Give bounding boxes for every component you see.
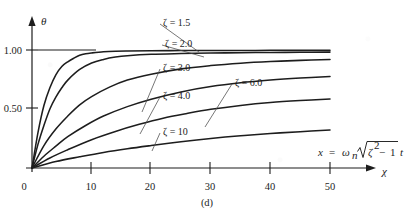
x-tick-label-30: 30 bbox=[205, 181, 216, 192]
curve-label: ζ = 3.0 bbox=[163, 62, 190, 74]
x-tick-label-40: 40 bbox=[265, 181, 276, 192]
equation-omega-subscript: n bbox=[352, 149, 358, 161]
curve-label-leader-line bbox=[152, 133, 160, 151]
curve-label: ζ = 6.0 bbox=[235, 77, 262, 89]
equation-minus: − bbox=[379, 146, 385, 158]
equation-lhs: x bbox=[317, 146, 323, 158]
x-axis-label: χ bbox=[381, 165, 388, 177]
response-curve bbox=[32, 59, 330, 168]
y-tick-label-1: 1.00 bbox=[4, 45, 22, 56]
y-tick-label-0: 0.50 bbox=[4, 103, 22, 114]
y-axis-label: θ bbox=[41, 15, 47, 27]
curve-label-leader-line bbox=[205, 84, 232, 127]
curve-label: ζ = 4.0 bbox=[163, 90, 190, 102]
x-axis-arrowhead bbox=[366, 164, 376, 171]
y-ticks-group bbox=[26, 50, 96, 108]
axes-group bbox=[26, 16, 376, 172]
x-tick-label-20: 20 bbox=[145, 181, 156, 192]
curve-labels-group: ζ = 1.5ζ = 2.0ζ = 3.0ζ = 4.0ζ = 6.0ζ = 1… bbox=[163, 17, 262, 138]
figure-container: 1.00 0.50 0 10 20 30 40 50 θ χ ζ = 1.5ζ … bbox=[0, 0, 418, 216]
curve-label-leader-line bbox=[140, 97, 160, 134]
equation-annotation: x = ω n ζ 2 − 1 t bbox=[317, 139, 404, 161]
x-tick-label-10: 10 bbox=[86, 181, 97, 192]
step-response-plot: 1.00 0.50 0 10 20 30 40 50 θ χ ζ = 1.5ζ … bbox=[0, 0, 418, 216]
curve-label: ζ = 2.0 bbox=[165, 38, 192, 50]
equation-omega: ω bbox=[342, 146, 350, 158]
curve-label: ζ = 10 bbox=[163, 126, 188, 138]
equation-equals: = bbox=[329, 146, 335, 158]
y-axis-arrowhead bbox=[28, 16, 35, 26]
equation-t: t bbox=[400, 146, 404, 158]
x-tick-label-0: 0 bbox=[21, 181, 26, 192]
figure-caption: (d) bbox=[201, 197, 214, 209]
curve-label: ζ = 1.5 bbox=[163, 17, 190, 29]
x-tick-label-50: 50 bbox=[325, 181, 336, 192]
equation-one: 1 bbox=[390, 146, 396, 158]
